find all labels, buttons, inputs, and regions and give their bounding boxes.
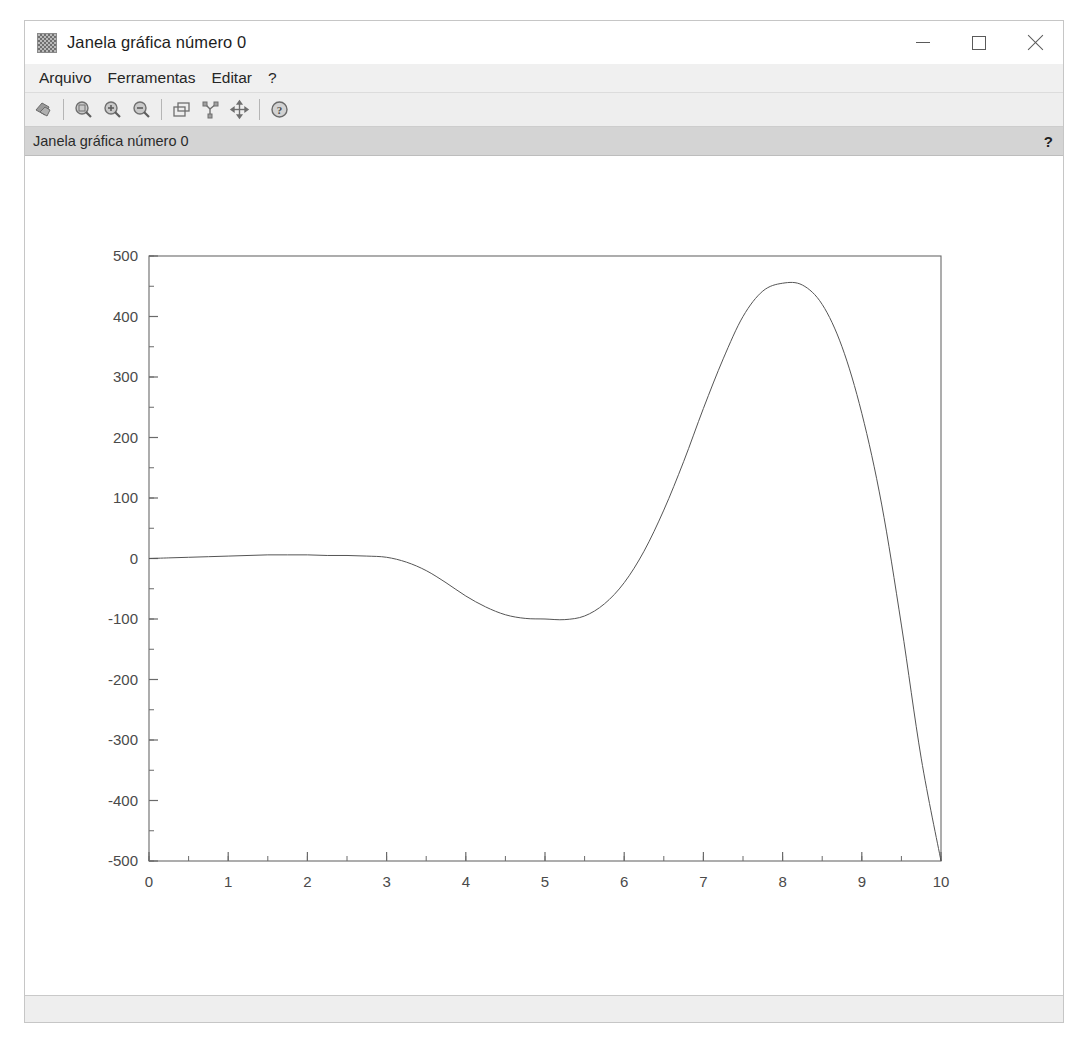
help-icon: ? [269, 99, 290, 120]
menu-editar[interactable]: Editar [203, 67, 260, 90]
zoom-in-icon [102, 99, 123, 120]
y-tick-label: 100 [113, 489, 138, 506]
infobar: Janela gráfica número 0 ? [25, 127, 1063, 156]
maximize-icon [972, 36, 986, 50]
screenshot-root: Janela gráfica número 0 Arquivo Ferramen… [0, 0, 1088, 1043]
infobar-help-icon[interactable]: ? [1044, 133, 1053, 150]
close-icon [1026, 34, 1044, 52]
zoom-in-button[interactable] [99, 96, 126, 123]
x-tick-label: 3 [382, 873, 390, 890]
toolbar-separator-1 [63, 99, 64, 120]
svg-text:?: ? [277, 104, 283, 116]
graphics-canvas[interactable]: 0123456789105004003002001000-100-200-300… [25, 156, 1063, 995]
data-curve [149, 282, 941, 861]
menu-arquivo[interactable]: Arquivo [31, 67, 100, 90]
x-tick-label: 5 [541, 873, 549, 890]
maximize-button[interactable] [951, 21, 1007, 64]
rotate-3d-button[interactable] [197, 96, 224, 123]
window-title: Janela gráfica número 0 [67, 33, 246, 52]
menubar: Arquivo Ferramentas Editar ? [25, 64, 1063, 93]
window-titlebar: Janela gráfica número 0 [25, 21, 1063, 64]
y-tick-label: 200 [113, 429, 138, 446]
y-tick-label: -100 [108, 610, 138, 627]
y-tick-label: -200 [108, 671, 138, 688]
infobar-label: Janela gráfica número 0 [33, 133, 189, 149]
pan-move-icon [229, 99, 250, 120]
menu-help[interactable]: ? [260, 67, 285, 90]
zoom-region-button[interactable] [70, 96, 97, 123]
y-tick-label: 500 [113, 247, 138, 264]
x-tick-label: 2 [303, 873, 311, 890]
rotate-3d-icon [200, 99, 221, 120]
window-controls [895, 21, 1063, 64]
y-tick-label: 400 [113, 308, 138, 325]
duplicate-window-icon [171, 99, 192, 120]
x-tick-label: 8 [778, 873, 786, 890]
x-tick-label: 4 [462, 873, 470, 890]
y-tick-label: -400 [108, 792, 138, 809]
menu-ferramentas[interactable]: Ferramentas [100, 67, 204, 90]
graphic-window: Janela gráfica número 0 Arquivo Ferramen… [24, 20, 1064, 1023]
x-tick-label: 10 [933, 873, 950, 890]
pan-move-button[interactable] [226, 96, 253, 123]
plot-frame [149, 256, 941, 861]
help-button[interactable]: ? [266, 96, 293, 123]
zoom-region-icon [73, 99, 94, 120]
x-tick-label: 7 [699, 873, 707, 890]
y-tick-label: -500 [108, 852, 138, 869]
x-tick-label: 1 [224, 873, 232, 890]
minimize-icon [916, 42, 930, 43]
y-tick-label: 300 [113, 368, 138, 385]
toolbar: ? [25, 93, 1063, 127]
export-file-icon [33, 99, 54, 120]
status-bar [25, 995, 1063, 1022]
y-tick-label: -300 [108, 731, 138, 748]
export-file-button[interactable] [30, 96, 57, 123]
x-tick-label: 6 [620, 873, 628, 890]
zoom-out-icon [131, 99, 152, 120]
zoom-out-button[interactable] [128, 96, 155, 123]
plot-figure: 0123456789105004003002001000-100-200-300… [25, 156, 1063, 995]
minimize-button[interactable] [895, 21, 951, 64]
close-button[interactable] [1007, 21, 1063, 64]
scilab-graphic-window-icon [37, 33, 57, 53]
toolbar-separator-3 [259, 99, 260, 120]
duplicate-window-button[interactable] [168, 96, 195, 123]
x-tick-label: 9 [858, 873, 866, 890]
y-tick-label: 0 [130, 550, 138, 567]
x-tick-label: 0 [145, 873, 153, 890]
toolbar-separator-2 [161, 99, 162, 120]
